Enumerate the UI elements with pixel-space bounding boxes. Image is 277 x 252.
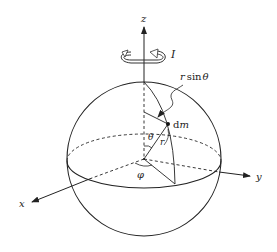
- theta-label: θ: [148, 132, 154, 142]
- mass-element-point: [166, 122, 170, 126]
- y-axis: [219, 172, 250, 176]
- phi-label: φ: [137, 169, 144, 180]
- y-axis-inner: [144, 159, 219, 172]
- origin-point: [143, 158, 145, 160]
- moment-of-inertia-label: I: [170, 48, 176, 61]
- r-sin-theta-line: [144, 112, 168, 124]
- radius-label: r: [160, 137, 165, 147]
- mass-element-label: dm: [173, 119, 189, 130]
- theta-arc: [144, 146, 152, 148]
- x-axis: [32, 178, 92, 202]
- x-axis-label: x: [19, 198, 25, 209]
- r-sin-theta-leader: [158, 85, 183, 117]
- rotation-arrow-icon: [121, 49, 165, 63]
- y-axis-label: y: [255, 171, 262, 182]
- z-axis-label: z: [140, 13, 147, 24]
- r-arc: [164, 129, 169, 145]
- projection-line: [144, 159, 175, 184]
- r-sin-theta-label: rsinθ: [180, 71, 209, 82]
- sphere-diagram: z I x y dm rsinθ θ r φ: [0, 0, 277, 252]
